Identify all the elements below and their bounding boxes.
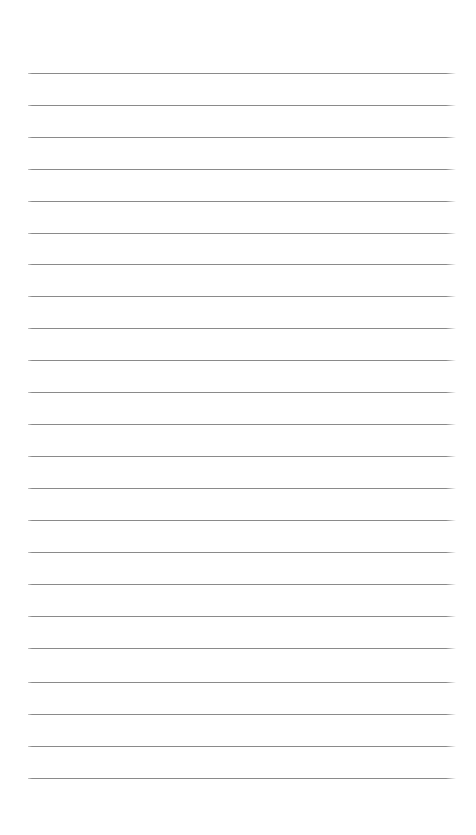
notepaper-page [0,0,476,835]
writing-surface[interactable] [28,73,456,779]
